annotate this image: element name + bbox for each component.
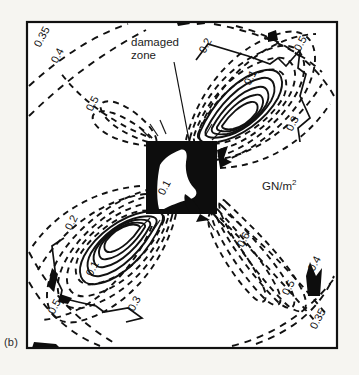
damaged-zone-annotation: damaged zone: [131, 36, 179, 62]
units-exponent: 2: [292, 178, 296, 187]
units-prefix: GN/m: [262, 180, 292, 192]
contour-figure: 0.35 0.4 0.5 0.2 0.1 0.5 0.3 0.1 0.2 0.1…: [0, 0, 359, 375]
contour-plot: 0.35 0.4 0.5 0.2 0.1 0.5 0.3 0.1 0.2 0.1…: [0, 0, 359, 375]
units-annotation: GN/m2: [262, 176, 296, 193]
panel-label: (b): [4, 336, 18, 348]
